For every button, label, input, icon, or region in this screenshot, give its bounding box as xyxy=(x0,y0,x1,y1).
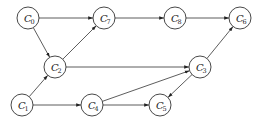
node-c0: C0 xyxy=(17,7,39,29)
edge-c3-to-c5 xyxy=(168,75,192,98)
node-subscript: 0 xyxy=(31,18,35,26)
node-subscript: 7 xyxy=(107,18,111,26)
node-c6: C6 xyxy=(229,7,251,29)
edge-c2-to-c7 xyxy=(63,26,96,59)
edge-c3-to-c6 xyxy=(207,27,233,59)
node-subscript: 5 xyxy=(163,105,167,113)
node-subscript: 4 xyxy=(95,105,99,113)
dependency-graph: C0C7C8C6C2C3C1C4C5 xyxy=(0,0,260,120)
node-c3: C3 xyxy=(189,56,211,78)
edge-c1-to-c2 xyxy=(29,75,48,96)
node-subscript: 1 xyxy=(25,105,29,113)
nodes-layer: C0C7C8C6C2C3C1C4C5 xyxy=(11,7,251,116)
node-c8: C8 xyxy=(164,7,186,29)
node-c5: C5 xyxy=(149,94,171,116)
node-subscript: 8 xyxy=(178,18,182,26)
edge-c0-to-c2 xyxy=(33,28,49,58)
node-subscript: 3 xyxy=(203,67,207,75)
node-c2: C2 xyxy=(44,56,66,78)
node-c7: C7 xyxy=(93,7,115,29)
node-c1: C1 xyxy=(11,94,33,116)
node-subscript: 2 xyxy=(58,67,62,75)
edge-c4-to-c3 xyxy=(102,71,189,102)
node-subscript: 6 xyxy=(243,18,247,26)
node-c4: C4 xyxy=(81,94,103,116)
